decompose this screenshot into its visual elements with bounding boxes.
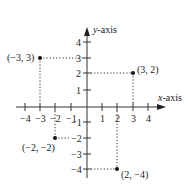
coordinate-plane: y-axis x-axis −4 −3 −2 −1 1 2 3 4 4 3 2 … (0, 0, 191, 188)
point-label: (−3, 3) (7, 52, 34, 64)
y-axis-arrow-icon (84, 27, 90, 36)
x-axis-label: x-axis (157, 92, 182, 103)
y-tick-label: −2 (71, 133, 82, 144)
point-label: (2, −4) (121, 169, 148, 181)
x-tick-label: 3 (131, 113, 136, 124)
y-tick-label: 3 (76, 53, 81, 64)
y-axis-label: y-axis (92, 24, 117, 35)
x-tick-label: −3 (35, 113, 46, 124)
x-tick-label: −2 (50, 113, 61, 124)
point-label: (3, 2) (137, 64, 159, 76)
point-neg2-neg2 (53, 136, 57, 140)
x-axis-arrow-icon (157, 104, 166, 110)
y-tick-label: 1 (76, 85, 81, 96)
y-tick-label: −3 (71, 149, 82, 160)
x-tick-label: −4 (20, 113, 31, 124)
y-tick-label: −4 (71, 164, 82, 175)
point-label: (−2, −2) (22, 142, 55, 154)
point-neg3-3 (38, 56, 42, 60)
y-tick-label: 2 (76, 68, 81, 79)
y-tick-label: −1 (71, 117, 82, 128)
x-tick-label: 1 (100, 113, 105, 124)
x-tick-label: 2 (115, 113, 120, 124)
x-tick-label: 4 (146, 113, 151, 124)
point-3-2 (131, 71, 135, 75)
point-2-neg4 (115, 167, 119, 171)
y-tick-label: 4 (76, 37, 81, 48)
